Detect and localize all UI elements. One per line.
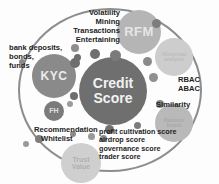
node-abnormal-analysis[interactable]: Abnormal analysis: [155, 38, 193, 76]
node-fh[interactable]: FH: [44, 101, 64, 121]
node-abnormal-analysis-label-line2: analysis: [162, 57, 186, 62]
node-credit-score-label-line1: Credit: [93, 76, 133, 91]
connector-dot: [149, 73, 158, 82]
label-group-activity: Volatility Mining Transactions Entertain…: [46, 9, 120, 45]
node-trust-value-label-line2: Value: [72, 163, 90, 170]
label-funds: funds: [9, 62, 62, 71]
label-abac: ABAC: [178, 85, 200, 94]
label-group-access-control: RBAC ABAC: [178, 76, 200, 94]
connector-dot: [152, 19, 161, 28]
connector-dot: [71, 44, 79, 52]
label-group-recommendation: Recommendation Whitelist: [34, 126, 98, 144]
connector-dot: [23, 141, 29, 147]
label-trader-score: trader score: [99, 153, 176, 161]
label-whitelist: Whitelist: [34, 135, 98, 144]
connector-dot: [143, 57, 152, 66]
node-rfm[interactable]: RFM: [117, 10, 161, 54]
node-kyc-label: KYC: [41, 70, 68, 83]
node-rfm-label: RFM: [124, 25, 154, 39]
node-credit-score[interactable]: Credit Score: [79, 57, 147, 125]
diagram-canvas: Credit Score RFM KYC FH Trust Value Abno…: [0, 0, 219, 184]
node-trust-value-label-line1: Trust: [72, 156, 90, 163]
connector-dot: [74, 54, 81, 61]
label-group-assets: bank deposits, bonds, funds: [9, 44, 62, 71]
label-group-scores: profit cultivation score airdrop score g…: [99, 128, 176, 162]
connector-dot: [90, 49, 100, 59]
node-fh-label: FH: [49, 107, 58, 114]
node-credit-score-label-line2: Score: [93, 91, 133, 106]
connector-dot: [110, 50, 121, 61]
label-similarity: Similarity: [156, 101, 190, 110]
node-trust-value[interactable]: Trust Value: [61, 143, 101, 183]
connector-dot: [70, 92, 78, 100]
connector-dot: [67, 101, 73, 107]
